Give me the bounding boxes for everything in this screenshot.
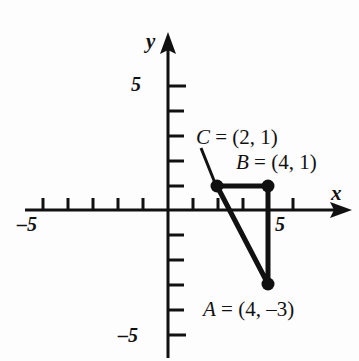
point-c-leader-line — [201, 148, 215, 183]
point-c-dot — [211, 180, 224, 193]
point-a-dot — [262, 278, 275, 291]
point-a-label: A = (4, –3) — [203, 299, 294, 320]
y-tick-label-5: 5 — [131, 74, 141, 94]
y-tick-label-minus-5: –5 — [118, 325, 138, 345]
point-c-label: C = (2, 1) — [196, 127, 278, 148]
plot-canvas — [0, 0, 359, 361]
y-axis-label: y — [146, 31, 155, 52]
coordinate-plane-figure: y x 5 –5 5 –5 C = (2, 1) B = (4, 1) A = … — [0, 0, 359, 361]
x-axis-label: x — [331, 183, 342, 204]
y-axis-ticks-negative — [168, 235, 186, 335]
y-axis-ticks-positive — [168, 86, 186, 186]
point-b-label: B = (4, 1) — [236, 152, 317, 173]
x-tick-label-minus-5: –5 — [17, 214, 37, 234]
point-b-dot — [262, 180, 275, 193]
x-tick-label-5: 5 — [275, 214, 285, 234]
